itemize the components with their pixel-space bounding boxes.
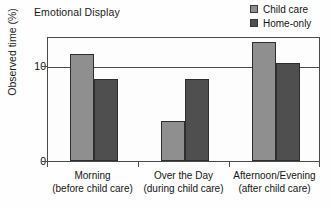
legend-label-child-care: Child care [263,4,308,15]
x-group-label-line2: (during child care) [133,183,234,196]
x-group-label-3: Afternoon/Evening(after child care) [224,170,325,195]
bar-child-care-group-2 [161,121,185,161]
chart-legend: Child care Home-only [250,3,311,29]
x-group-label-1: Morning(before child care) [42,170,143,195]
y-axis-label: Observed time (%) [6,0,18,127]
x-group-label-line1: Morning [74,170,110,181]
plot-area [47,37,320,162]
legend-item-child-care: Child care [250,3,311,15]
legend-item-home-only: Home-only [250,17,311,29]
legend-swatch-home-only [250,19,258,27]
x-group-label-line2: (after child care) [224,183,325,196]
x-group-label-line1: Afternoon/Evening [233,170,315,181]
x-tick-mark-1 [138,162,139,167]
x-axis-ticks [47,162,320,168]
x-group-label-2: Over the Day(during child care) [133,170,234,195]
chart-title: Emotional Display [34,6,120,18]
legend-label-home-only: Home-only [263,18,311,29]
bar-home-only-group-3 [276,63,300,161]
x-tick-mark-left [47,162,48,167]
bar-home-only-group-1 [94,79,118,161]
bar-home-only-group-2 [185,79,209,161]
emotional-display-bar-chart: Emotional Display Child care Home-only O… [0,0,331,208]
x-tick-mark-2 [229,162,230,167]
legend-swatch-child-care [250,5,258,13]
x-tick-mark-right [319,162,320,167]
bar-child-care-group-3 [252,42,276,161]
x-group-label-line1: Over the Day [154,170,213,181]
bar-child-care-group-1 [70,54,94,161]
x-group-label-line2: (before child care) [42,183,143,196]
y-axis-ticks: 10 0 [20,37,46,163]
x-axis-group-labels: Morning(before child care)Over the Day(d… [40,170,331,206]
